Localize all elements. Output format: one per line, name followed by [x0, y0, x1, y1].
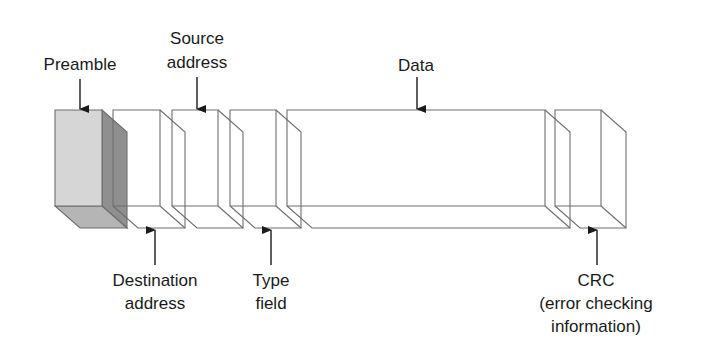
box-depth-edges — [287, 110, 570, 228]
field-box-data — [287, 110, 570, 228]
box-depth-edges — [172, 110, 243, 228]
label-text: Destination — [112, 271, 197, 290]
label-text: CRC — [578, 271, 615, 290]
box-front-face — [55, 110, 102, 206]
label-text: field — [255, 294, 286, 313]
label-text: (error checking — [539, 294, 652, 313]
box-corner-edge — [218, 206, 243, 228]
field-labels: PreambleSourceaddressDataDestinationaddr… — [44, 29, 653, 336]
field-box-preamble — [55, 110, 127, 228]
box-corner-edge — [601, 206, 626, 228]
ethernet-frame-diagram: PreambleSourceaddressDataDestinationaddr… — [0, 0, 701, 361]
box-depth-edges — [230, 110, 301, 228]
label-data: Data — [398, 56, 434, 109]
label-text: Source — [170, 29, 224, 48]
box-corner-edge — [545, 206, 570, 228]
label-source-address: Sourceaddress — [167, 29, 227, 109]
label-text: information) — [551, 317, 641, 336]
field-box-type-field — [230, 110, 301, 228]
box-front-face — [172, 110, 218, 206]
label-text: Preamble — [44, 55, 117, 74]
label-preamble: Preamble — [44, 55, 117, 109]
label-text: Type — [253, 271, 290, 290]
field-box-source-address — [172, 110, 243, 228]
box-corner-edge — [276, 206, 301, 228]
label-text: address — [125, 294, 185, 313]
label-crc: CRC(error checkinginformation) — [539, 230, 652, 336]
box-front-face — [287, 110, 545, 206]
box-corner-edge — [160, 206, 185, 228]
frame-diagram-canvas: PreambleSourceaddressDataDestinationaddr… — [0, 0, 701, 361]
label-text: address — [167, 53, 227, 72]
label-text: Data — [398, 56, 434, 75]
label-destination-address: Destinationaddress — [112, 230, 197, 313]
box-front-face — [230, 110, 276, 206]
label-type-field: Typefield — [253, 230, 290, 313]
frame-fields — [55, 110, 626, 228]
